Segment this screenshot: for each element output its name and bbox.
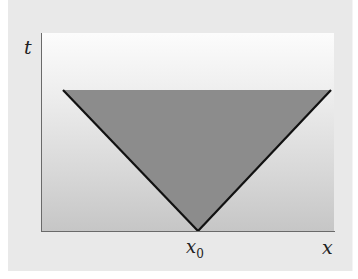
apex-label-subscript: 0 bbox=[196, 247, 204, 261]
light-cone-region bbox=[0, 0, 358, 279]
apex-label-base: x bbox=[186, 236, 196, 257]
apex-label: x0 bbox=[186, 236, 204, 261]
x-axis-label: x bbox=[322, 236, 333, 258]
x-axis bbox=[41, 231, 335, 232]
t-axis bbox=[41, 33, 42, 232]
t-axis-label: t bbox=[24, 36, 32, 58]
cone-fill bbox=[63, 90, 331, 231]
